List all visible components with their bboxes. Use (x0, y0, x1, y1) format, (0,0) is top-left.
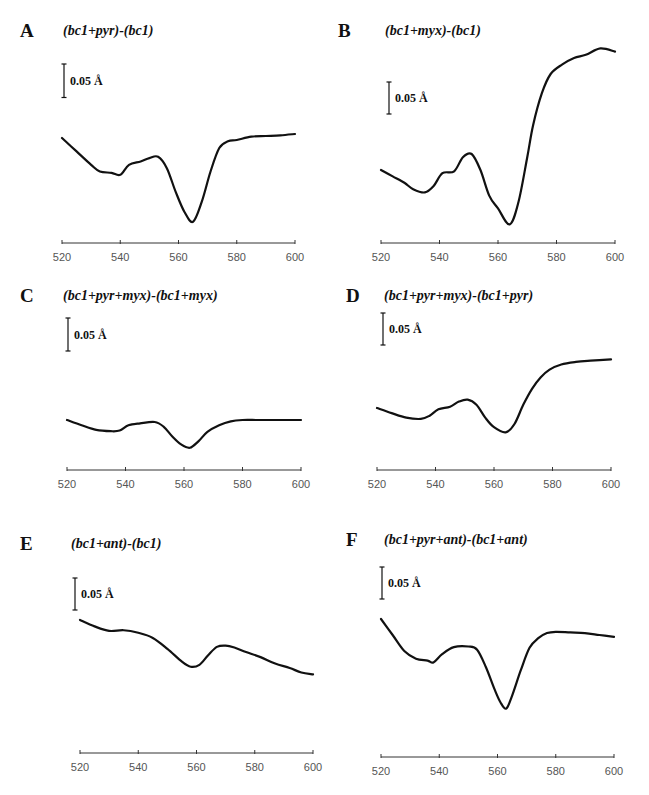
x-tick-label: 580 (543, 478, 561, 490)
scale-bar-label: 0.05 Å (81, 587, 114, 601)
panel-letter-d: D (346, 285, 360, 306)
scale-bar-label: 0.05 Å (70, 74, 103, 88)
panel-letter-c: C (20, 285, 34, 306)
x-tick-label: 540 (116, 478, 134, 490)
difference-spectrum-curve (67, 420, 301, 448)
x-tick-label: 540 (111, 251, 129, 263)
panel-letter-a: A (20, 20, 34, 41)
panel-title-c: (bc1+pyr+myx)-(bc1+myx) (63, 288, 218, 304)
x-tick-label: 580 (547, 251, 565, 263)
x-tick-label: 520 (372, 251, 390, 263)
scale-bar-label: 0.05 Å (389, 322, 422, 336)
difference-spectrum-curve (80, 620, 313, 674)
difference-spectrum-curve (381, 619, 614, 709)
x-tick-label: 520 (71, 761, 89, 773)
x-tick-label: 540 (129, 761, 147, 773)
x-tick-label: 560 (187, 761, 205, 773)
difference-spectrum-curve (377, 359, 611, 432)
x-tick-label: 600 (605, 765, 623, 777)
panel-letter-e: E (20, 533, 33, 554)
scale-bar-label: 0.05 Å (388, 576, 421, 590)
x-axis: 520540560580600 (372, 754, 623, 777)
x-tick-label: 540 (430, 765, 448, 777)
x-tick-label: 560 (175, 478, 193, 490)
x-tick-label: 600 (606, 251, 624, 263)
x-tick-label: 600 (602, 478, 620, 490)
x-tick-label: 580 (547, 765, 565, 777)
x-axis: 520540560580600 (372, 240, 624, 263)
x-tick-label: 580 (246, 761, 264, 773)
scale-bar: 0.05 Å (66, 318, 108, 351)
scale-bar: 0.05 Å (73, 578, 115, 610)
x-axis: 520540560580600 (71, 750, 322, 773)
scale-bar: 0.05 Å (380, 567, 422, 599)
x-tick-label: 600 (292, 478, 310, 490)
x-tick-label: 520 (372, 765, 390, 777)
panel-title-e: (bc1+ant)-(bc1) (71, 536, 161, 552)
panel-f: F (bc1+pyr+ant)-(bc1+ant) 0.05 Å52054056… (346, 529, 623, 777)
panel-title-d: (bc1+pyr+myx)-(bc1+pyr) (384, 288, 533, 304)
x-tick-label: 580 (233, 478, 251, 490)
x-tick-label: 560 (489, 251, 507, 263)
x-tick-label: 560 (488, 765, 506, 777)
x-tick-label: 560 (485, 478, 503, 490)
x-axis: 520540560580600 (368, 467, 620, 490)
x-tick-label: 560 (169, 251, 187, 263)
scale-bar: 0.05 Å (387, 82, 429, 114)
spectra-figure: A (bc1+pyr)-(bc1) 0.05 Å520540560580600 … (0, 0, 649, 795)
panel-c: C (bc1+pyr+myx)-(bc1+myx) 0.05 Å52054056… (20, 285, 310, 490)
panel-letter-b: B (338, 20, 351, 41)
scale-bar-label: 0.05 Å (395, 91, 428, 105)
x-tick-label: 600 (286, 251, 304, 263)
panel-title-f: (bc1+pyr+ant)-(bc1+ant) (384, 532, 528, 548)
x-axis: 520540560580600 (58, 467, 310, 490)
scale-bar: 0.05 Å (381, 313, 423, 345)
x-tick-label: 600 (304, 761, 322, 773)
x-tick-label: 520 (58, 478, 76, 490)
x-tick-label: 520 (368, 478, 386, 490)
x-tick-label: 580 (228, 251, 246, 263)
panel-letter-f: F (346, 529, 358, 550)
panel-e: E (bc1+ant)-(bc1) 0.05 Å520540560580600 (20, 533, 322, 773)
difference-spectrum-curve (62, 134, 295, 222)
x-axis: 520540560580600 (53, 240, 304, 263)
x-tick-label: 540 (430, 251, 448, 263)
x-tick-label: 540 (426, 478, 444, 490)
x-tick-label: 520 (53, 251, 71, 263)
panel-a: A (bc1+pyr)-(bc1) 0.05 Å520540560580600 (20, 20, 304, 263)
panel-b: B (bc1+myx)-(bc1) 0.05 Å520540560580600 (338, 20, 624, 263)
panel-title-a: (bc1+pyr)-(bc1) (63, 23, 153, 39)
scale-bar: 0.05 Å (62, 64, 104, 98)
panel-d: D (bc1+pyr+myx)-(bc1+pyr) 0.05 Å52054056… (346, 285, 620, 490)
panel-title-b: (bc1+myx)-(bc1) (385, 23, 481, 39)
scale-bar-label: 0.05 Å (74, 328, 107, 342)
difference-spectrum-curve (381, 48, 615, 224)
